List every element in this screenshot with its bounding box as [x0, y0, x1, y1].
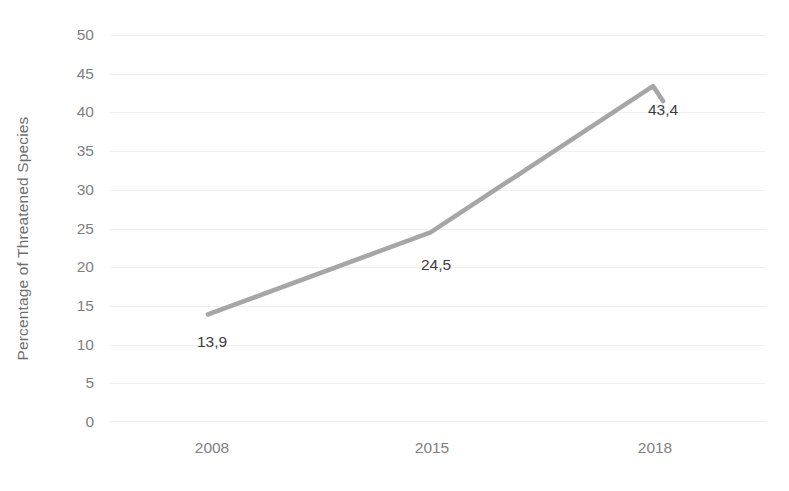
line-chart: Percentage of Threatened Species 50 45 4… [0, 0, 789, 491]
data-label-2015: 24,5 [421, 257, 451, 273]
y-tick-label: 25 [48, 221, 94, 237]
plot-area [110, 35, 765, 422]
gridline [110, 383, 765, 384]
y-tick-label: 45 [48, 66, 94, 82]
data-label-2018: 43,4 [648, 102, 678, 118]
gridline-baseline [110, 421, 765, 422]
x-axis-tick-labels: 2008 2015 2018 [110, 440, 765, 464]
y-tick-label: 0 [48, 414, 94, 430]
gridline [110, 35, 765, 36]
y-tick-label: 20 [48, 259, 94, 275]
y-tick-label: 30 [48, 182, 94, 198]
gridline [110, 306, 765, 307]
y-tick-label: 35 [48, 143, 94, 159]
data-label-2008: 13,9 [197, 334, 227, 350]
y-tick-label: 50 [48, 27, 94, 43]
y-tick-label: 10 [48, 337, 94, 353]
y-axis-title: Percentage of Threatened Species [0, 0, 46, 491]
gridline [110, 74, 765, 75]
gridline [110, 229, 765, 230]
x-tick-label-2018: 2018 [638, 440, 672, 456]
y-axis-tick-labels: 50 45 40 35 30 25 20 15 10 5 0 [48, 35, 94, 422]
gridline [110, 151, 765, 152]
gridline [110, 190, 765, 191]
x-tick-label-2008: 2008 [195, 440, 229, 456]
y-tick-label: 15 [48, 298, 94, 314]
x-tick-label-2015: 2015 [415, 440, 449, 456]
y-tick-label: 5 [48, 376, 94, 392]
y-tick-label: 40 [48, 105, 94, 121]
